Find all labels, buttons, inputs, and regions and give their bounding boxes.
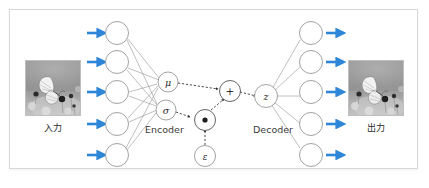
operator-node-group: + ε <box>195 81 241 167</box>
encoder-edge <box>127 40 157 104</box>
output-panel-label: 出力 <box>367 122 385 133</box>
encoder-edge <box>127 38 159 78</box>
reparameterization-edge-group <box>176 83 256 145</box>
encoder-edge <box>127 70 157 105</box>
sigma-node-label: σ <box>163 105 170 116</box>
mu-node-label: μ <box>165 77 171 88</box>
mu-to-add-edge <box>178 83 218 89</box>
elementwise-multiply-dot-icon <box>202 117 207 122</box>
sigma-to-multiply-edge <box>176 112 190 117</box>
decoder-output-node-5 <box>300 144 323 167</box>
decoder-output-node-4 <box>300 113 323 136</box>
encoder-input-node-3 <box>106 81 129 104</box>
vae-diagram-figure: μ σ + ε <box>0 0 429 188</box>
latent-parameter-group: μ σ <box>156 72 178 120</box>
decoder-label: Decoder <box>253 124 293 135</box>
encoder-edge <box>126 88 158 148</box>
diagram-canvas: μ σ + ε <box>0 0 429 188</box>
input-panel-label: 入力 <box>44 122 62 133</box>
z-node-label: z <box>262 91 269 102</box>
encoder-input-node-2 <box>106 51 129 74</box>
decoder-edge <box>272 40 300 89</box>
encoder-input-node-5 <box>106 144 129 167</box>
latent-z-group: z <box>255 85 278 108</box>
add-to-z-edge <box>240 92 256 96</box>
encoder-label: Encoder <box>145 124 184 135</box>
decoder-output-node-3 <box>300 81 323 104</box>
multiply-to-add-edge <box>211 99 224 110</box>
add-node-label: + <box>226 86 234 97</box>
epsilon-node-label: ε <box>203 152 208 162</box>
decoder-edge <box>274 102 301 124</box>
encoder-input-node-1 <box>106 22 129 45</box>
encoder-edge <box>128 68 159 80</box>
encoder-edge <box>129 84 157 92</box>
output-arrow-group <box>326 33 343 155</box>
decoder-output-node-2 <box>300 51 323 74</box>
decoder-output-node-1 <box>300 22 323 45</box>
encoder-edge <box>129 96 156 106</box>
input-arrow-group <box>87 33 104 155</box>
encoder-input-node-4 <box>106 113 129 136</box>
decoder-output-node-group <box>300 22 323 167</box>
encoder-input-node-group <box>106 22 129 167</box>
